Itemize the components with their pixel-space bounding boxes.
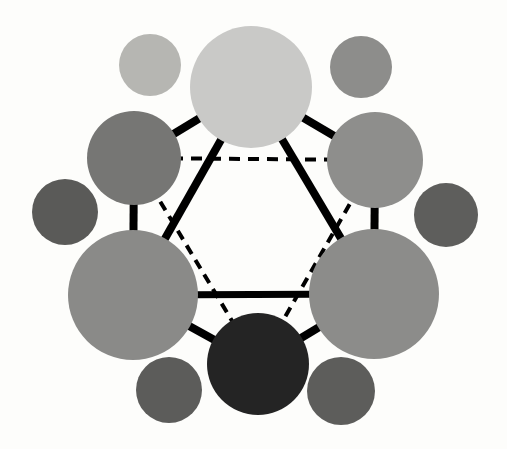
node-upper-right[interactable] [327,112,423,208]
diagram-canvas [0,0,507,449]
node-bottom[interactable] [207,313,309,415]
node-satellite-bottom-left[interactable] [136,357,202,423]
node-satellite-top-right[interactable] [330,36,392,98]
node-satellite-left[interactable] [32,179,98,245]
node-lower-left[interactable] [68,230,198,360]
cluster-diagram [0,0,507,449]
node-top[interactable] [190,26,312,148]
node-lower-right[interactable] [309,229,439,359]
node-satellite-bottom-right[interactable] [307,357,375,425]
node-upper-left[interactable] [87,111,181,205]
node-satellite-top-left[interactable] [119,34,181,96]
node-satellite-right[interactable] [414,183,478,247]
